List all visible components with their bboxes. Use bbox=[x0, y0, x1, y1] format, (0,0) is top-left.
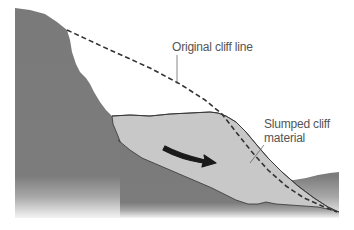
slumped-material-label-line1: Slumped cliff bbox=[264, 117, 330, 131]
original-cliff-line-label: Original cliff line bbox=[172, 40, 253, 54]
slumped-material-label-line2: material bbox=[264, 131, 305, 145]
cliff-slump-diagram bbox=[0, 0, 354, 230]
